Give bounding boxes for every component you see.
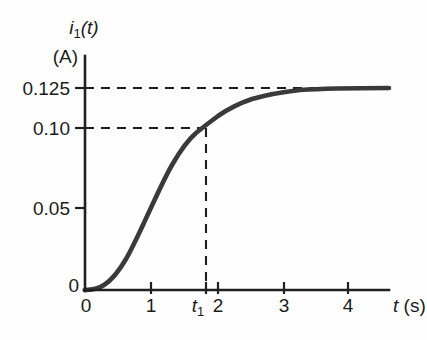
y-axis-title: i1(t): [69, 18, 98, 40]
y-tick-label-0-125: 0.125: [22, 79, 70, 98]
y-tick-label-0: 0: [68, 276, 79, 295]
x-tick-label-2: 2: [213, 296, 224, 315]
figure-canvas: i1(t) (A) 0.125 0.10 0.05 0 0 1 t1 2 3 4…: [0, 0, 427, 340]
y-tick-label-0-05: 0.05: [33, 199, 70, 218]
current-curve: [85, 88, 389, 290]
y-axis-unit-label: (A): [53, 47, 78, 66]
x-axis-title: t (s): [393, 296, 426, 315]
y-tick-label-0-10: 0.10: [33, 119, 70, 138]
x-axis-title-unit: (s): [398, 295, 425, 316]
x-tick-label-4: 4: [343, 296, 354, 315]
x-tick-label-1: 1: [146, 296, 157, 315]
t1-subscript: 1: [197, 304, 204, 319]
y-axis-title-argument: (t): [81, 17, 99, 38]
t1-annotation-label: t1: [192, 296, 205, 318]
x-axis-unit-text: (s): [404, 295, 426, 316]
x-tick-label-0: 0: [81, 296, 92, 315]
x-tick-label-3: 3: [279, 296, 290, 315]
